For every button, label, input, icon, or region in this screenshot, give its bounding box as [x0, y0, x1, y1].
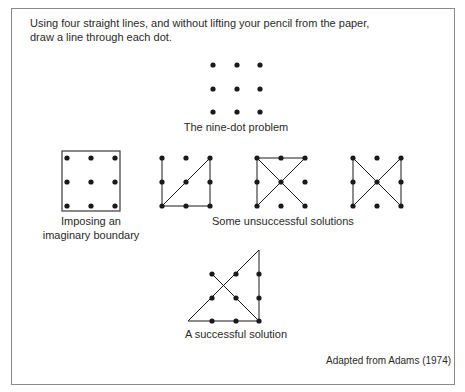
- boundary-caption-line-1: Imposing an: [36, 215, 146, 228]
- successful-solution: [188, 250, 262, 324]
- unsuccessful-solution-1: [159, 155, 212, 208]
- successful-caption: A successful solution: [176, 328, 296, 341]
- boundary-diagram: [62, 151, 120, 211]
- nine-dot-grid: [210, 62, 262, 114]
- unsuccessful-solution-2: [254, 155, 307, 208]
- unsuccessful-caption: Some unsuccessful solutions: [212, 215, 354, 228]
- unsuccessful-solution-3: [350, 155, 403, 208]
- boundary-caption-line-2: imaginary boundary: [36, 229, 146, 242]
- nine-dot-caption: The nine-dot problem: [176, 121, 296, 134]
- credit-text: Adapted from Adams (1974): [326, 354, 451, 367]
